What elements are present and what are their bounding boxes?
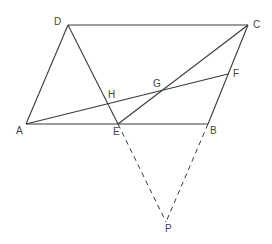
label-A: A — [16, 125, 23, 136]
segment-DA — [26, 25, 68, 124]
label-E: E — [113, 126, 120, 137]
point-labels: D C A B E F G H P — [16, 16, 260, 234]
geometry-diagram: D C A B E F G H P — [0, 0, 272, 244]
label-P: P — [165, 223, 172, 234]
segment-BP — [166, 124, 208, 222]
segment-DE — [68, 25, 118, 124]
label-F: F — [233, 68, 239, 79]
segment-EP — [118, 124, 166, 222]
label-D: D — [54, 16, 61, 27]
label-G: G — [153, 78, 161, 89]
solid-segments — [26, 25, 248, 124]
label-H: H — [108, 89, 115, 100]
dashed-segments — [118, 124, 208, 222]
label-C: C — [253, 19, 260, 30]
label-B: B — [210, 125, 217, 136]
